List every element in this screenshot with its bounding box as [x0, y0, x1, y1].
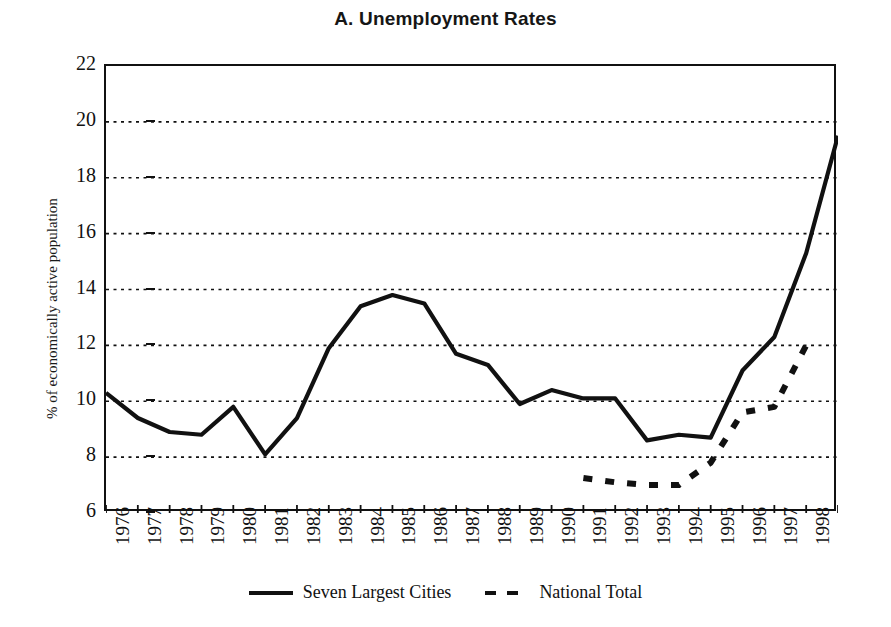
x-tick-label: 1988: [495, 507, 514, 577]
chart-legend: Seven Largest CitiesNational Total: [0, 582, 891, 603]
x-tick-label: 1990: [559, 507, 578, 577]
x-tick-label: 1989: [527, 507, 546, 577]
series-line-2: [583, 345, 806, 485]
x-tick-label: 1998: [813, 507, 832, 577]
x-tick-label: 1977: [145, 507, 164, 577]
solid-line-icon: [249, 591, 293, 595]
legend-label: Seven Largest Cities: [303, 582, 452, 603]
x-tick-label: 1986: [431, 507, 450, 577]
y-axis-ticks: 6810121416182022: [44, 0, 96, 627]
series-line-1: [106, 136, 838, 454]
x-tick-label: 1994: [686, 507, 705, 577]
chart-page: A. Unemployment Rates % of economically …: [0, 0, 891, 627]
x-tick-label: 1976: [113, 507, 132, 577]
x-tick-label: 1980: [240, 507, 259, 577]
legend-label: National Total: [539, 582, 642, 603]
y-tick-label: 12: [54, 332, 96, 352]
x-tick-label: 1997: [781, 507, 800, 577]
x-tick-label: 1993: [654, 507, 673, 577]
y-tick-label: 8: [54, 444, 96, 464]
gridlines: [106, 122, 838, 457]
data-series-layer: [106, 136, 838, 485]
x-tick-label: 1995: [718, 507, 737, 577]
x-tick-label: 1985: [399, 507, 418, 577]
legend-item-2: National Total: [485, 582, 642, 603]
x-tick-label: 1991: [590, 507, 609, 577]
x-tick-label: 1984: [368, 507, 387, 577]
y-tick-label: 16: [54, 221, 96, 241]
plot-area: [104, 64, 836, 511]
x-tick-label: 1987: [463, 507, 482, 577]
x-tick-label: 1982: [304, 507, 323, 577]
dashed-line-icon: [485, 591, 529, 595]
y-tick-label: 20: [54, 109, 96, 129]
y-tick-label: 10: [54, 388, 96, 408]
page-title: A. Unemployment Rates: [0, 8, 891, 30]
x-tick-label: 1992: [622, 507, 641, 577]
x-tick-label: 1979: [208, 507, 227, 577]
y-tick-label: 22: [54, 53, 96, 73]
x-tick-label: 1983: [336, 507, 355, 577]
x-tick-label: 1978: [177, 507, 196, 577]
y-tick-label: 6: [54, 500, 96, 520]
legend-item-1: Seven Largest Cities: [249, 582, 452, 603]
y-tick-label: 18: [54, 165, 96, 185]
y-tick-label: 14: [54, 277, 96, 297]
x-tick-label: 1996: [750, 507, 769, 577]
x-tick-label: 1981: [272, 507, 291, 577]
chart-canvas: [106, 66, 838, 513]
